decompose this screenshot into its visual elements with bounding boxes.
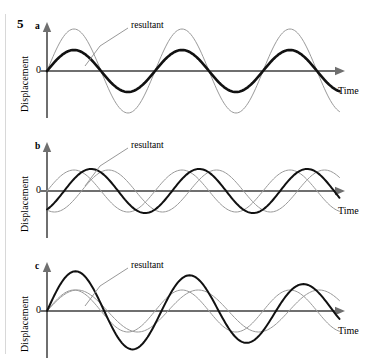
panel-a-plot: [0, 0, 377, 124]
figure-root: 5 a Displacement 0 Time resultant b Disp…: [0, 0, 377, 364]
displacement-axis-arrowhead: [43, 22, 51, 32]
panel-c-plot: [0, 240, 377, 364]
displacement-axis-arrowhead: [43, 142, 51, 152]
panel-b: b Displacement 0 Time resultant: [0, 120, 377, 244]
panel-b-plot: [0, 120, 377, 244]
panel-a: a Displacement 0 Time resultant: [0, 0, 377, 124]
panel-c: c Displacement 0 Time resultant: [0, 240, 377, 364]
time-axis-arrowhead: [335, 67, 345, 75]
displacement-axis-arrowhead: [43, 262, 51, 272]
